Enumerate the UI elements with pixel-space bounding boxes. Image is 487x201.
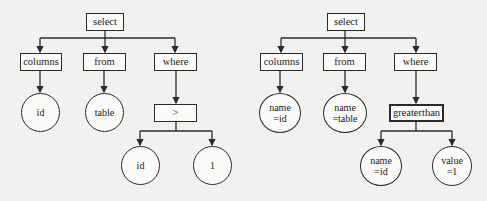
node-label-line2: =id [273,113,286,125]
node-label: columns [23,57,59,68]
node-label-line2: =id [374,166,387,178]
left-operand-id: id [121,146,160,185]
left-select-node: select [86,13,124,31]
right-from-node: from [323,53,366,71]
right-operand-name-id: name =id [360,146,402,186]
node-label-line2: =1 [447,166,458,178]
node-label-line1: value [441,155,463,167]
node-label: table [95,107,114,119]
left-from-leaf-table: table [85,93,124,132]
node-label: where [403,57,429,68]
right-columns-node: columns [260,53,303,71]
left-from-node: from [83,53,126,71]
right-where-node: where [394,53,437,71]
node-label-line1: name [370,155,392,167]
node-label: from [334,57,354,68]
right-columns-leaf-name-id: name =id [259,93,301,133]
node-label: where [163,57,189,68]
node-label-line2: =table [332,113,357,125]
node-label: greaterthan [393,108,440,119]
node-label: select [93,17,117,28]
left-columns-node: columns [20,53,62,71]
left-greater-than-node: > [154,104,197,122]
node-label: columns [264,57,300,68]
node-label: id [37,107,45,119]
right-greaterthan-node: greaterthan [389,104,444,122]
connector-lines [0,0,487,201]
node-label-line1: name [269,102,291,114]
right-from-leaf-name-table: name =table [323,93,367,133]
syntax-tree-diagram: select columns from where id table > id … [0,0,487,201]
right-select-node: select [327,13,365,31]
node-label: select [334,17,358,28]
node-label: id [137,160,145,172]
node-label-line1: name [334,102,356,114]
left-operand-1: 1 [193,146,232,185]
node-label: 1 [210,160,215,172]
right-operand-value-1: value =1 [432,146,472,186]
node-label: > [173,108,179,119]
left-where-node: where [154,53,197,71]
left-columns-leaf-id: id [21,93,60,132]
node-label: from [94,57,114,68]
